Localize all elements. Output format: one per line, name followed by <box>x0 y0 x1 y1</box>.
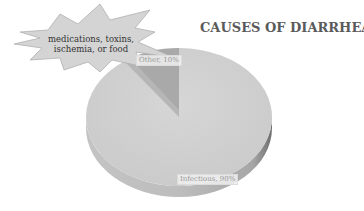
chart-canvas: CAUSES OF DIARRHEA medications, toxins, … <box>0 0 364 211</box>
callout-line-1: medications, toxins, <box>46 34 136 44</box>
callout-line-2: ischemia, or food <box>46 44 136 54</box>
data-label-infectious: Infectious, 90% <box>177 174 238 185</box>
slice-infectious[interactable] <box>86 48 272 186</box>
callout-text: medications, toxins, ischemia, or food <box>46 34 136 54</box>
data-label-other: Other, 10% <box>136 55 182 66</box>
chart-title: CAUSES OF DIARRHEA <box>200 20 360 35</box>
